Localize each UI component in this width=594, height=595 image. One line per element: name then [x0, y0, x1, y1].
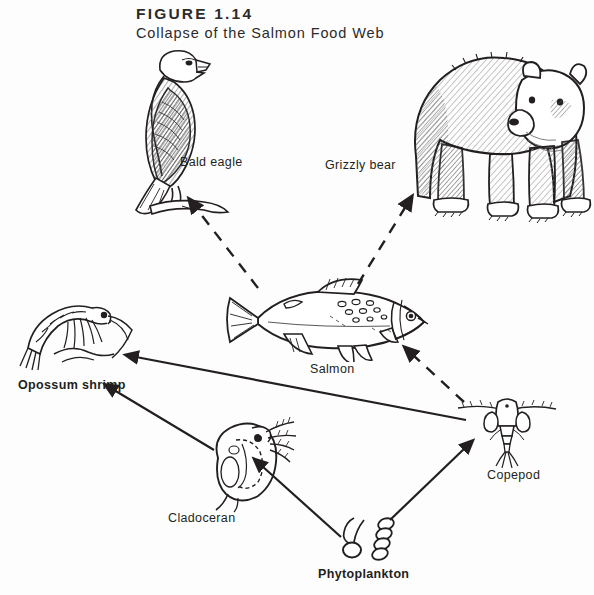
figure-panel: FIGURE 1.14 Collapse of the Salmon Food … — [0, 0, 594, 595]
label-grizzly-bear: Grizzly bear — [325, 158, 396, 172]
copepod-illustration — [452, 392, 562, 468]
label-bald-eagle: Bald eagle — [180, 155, 243, 169]
label-salmon: Salmon — [310, 362, 354, 376]
figure-number: FIGURE 1.14 — [136, 4, 566, 23]
opossum-shrimp-illustration — [18, 296, 136, 376]
label-opossum-shrimp: Opossum shrimp — [18, 378, 126, 392]
label-cladoceran: Cladoceran — [168, 511, 235, 525]
phytoplankton-illustration — [330, 510, 410, 562]
cladoceran-illustration — [190, 414, 300, 514]
link-copepod-to-opossum-shrimp — [136, 357, 466, 420]
label-copepod: Copepod — [487, 468, 540, 482]
grizzly-bear-illustration — [404, 36, 594, 236]
bald-eagle-illustration — [112, 42, 232, 222]
label-phytoplankton: Phytoplankton — [318, 567, 409, 581]
salmon-illustration — [222, 272, 432, 362]
